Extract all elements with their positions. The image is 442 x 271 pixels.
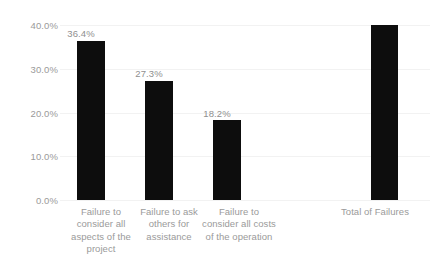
bar-chart: 40.0% 30.0% 20.0% 10.0% 0.0% 36.4% 27.3%… bbox=[0, 0, 442, 271]
y-tick-label-40: 40.0% bbox=[12, 20, 58, 31]
bar-failure-consider-costs[interactable] bbox=[213, 120, 241, 200]
bar-value-label-2: 27.3% bbox=[125, 68, 173, 79]
y-tick-label-0: 0.0% bbox=[12, 195, 58, 206]
gridline-0 bbox=[60, 200, 430, 201]
category-label-1-line-3: aspects of the bbox=[62, 231, 140, 243]
bars-layer bbox=[60, 25, 430, 200]
category-label-4-line-1: Total of Failures bbox=[329, 206, 421, 218]
bar-value-label-3: 18.2% bbox=[193, 108, 241, 119]
category-label-3-line-3: of the operation bbox=[195, 231, 283, 243]
y-tick-label-20: 20.0% bbox=[12, 107, 58, 118]
category-label-3-line-1: Failure to bbox=[195, 206, 283, 218]
y-tick-label-30: 30.0% bbox=[12, 63, 58, 74]
category-label-1-line-1: Failure to bbox=[62, 206, 140, 218]
y-tick-label-10: 10.0% bbox=[12, 151, 58, 162]
bar-failure-consider-aspects[interactable] bbox=[77, 41, 105, 200]
bar-total-of-failures[interactable] bbox=[371, 25, 398, 200]
bar-failure-ask-assistance[interactable] bbox=[145, 81, 173, 200]
category-label-4: Total of Failures bbox=[329, 206, 421, 218]
category-label-1: Failure to consider all aspects of the p… bbox=[62, 206, 140, 256]
category-label-3: Failure to consider all costs of the ope… bbox=[195, 206, 283, 243]
y-axis: 40.0% 30.0% 20.0% 10.0% 0.0% bbox=[0, 0, 58, 271]
category-label-3-line-2: consider all costs bbox=[195, 218, 283, 230]
category-label-1-line-2: consider all bbox=[62, 218, 140, 230]
bar-value-label-1: 36.4% bbox=[57, 28, 105, 39]
category-label-1-line-4: project bbox=[62, 243, 140, 255]
